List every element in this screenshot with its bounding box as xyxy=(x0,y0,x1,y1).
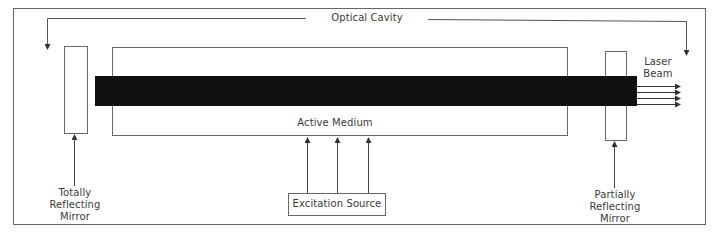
laser-beam xyxy=(95,76,637,106)
totally-reflecting-mirror xyxy=(65,47,88,134)
active-medium-label: Active Medium xyxy=(290,117,380,129)
totally-label-line1: Totally xyxy=(44,187,106,199)
partially-reflecting-mirror-label: Partially Reflecting Mirror xyxy=(584,189,646,225)
partially-label-line3: Mirror xyxy=(584,213,646,225)
excitation-source-label: Excitation Source xyxy=(289,198,385,210)
totally-label-line3: Mirror xyxy=(44,211,106,223)
partially-label-line1: Partially xyxy=(584,189,646,201)
optical-cavity-label: Optical Cavity xyxy=(306,12,428,24)
totally-label-line2: Reflecting xyxy=(44,199,106,211)
laser-beam-label: Laser Beam xyxy=(640,56,676,80)
output-beam-arrows xyxy=(637,87,680,105)
laser-beam-label-line2: Beam xyxy=(640,68,676,80)
totally-reflecting-mirror-label: Totally Reflecting Mirror xyxy=(44,187,106,223)
partially-label-line2: Reflecting xyxy=(584,201,646,213)
laser-beam-label-line1: Laser xyxy=(640,56,676,68)
excitation-arrows xyxy=(308,138,369,193)
